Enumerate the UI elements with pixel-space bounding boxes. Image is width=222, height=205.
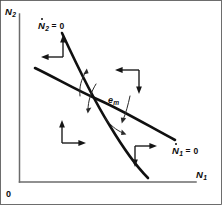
origin-label: 0 (6, 190, 11, 199)
overdot-marker (175, 143, 177, 145)
overdot-marker (41, 18, 43, 20)
equilibrium-point-label: em (108, 96, 119, 105)
phase-plane-figure: N2 N1 0 N2 = 0 N1 = 0 em (0, 0, 222, 205)
y-axis-label: N2 (5, 7, 16, 17)
n2-nullcline-label: N2 = 0 (38, 21, 65, 31)
n1-nullcline-label: N1 = 0 (172, 146, 199, 156)
x-axis-label: N1 (196, 170, 207, 180)
